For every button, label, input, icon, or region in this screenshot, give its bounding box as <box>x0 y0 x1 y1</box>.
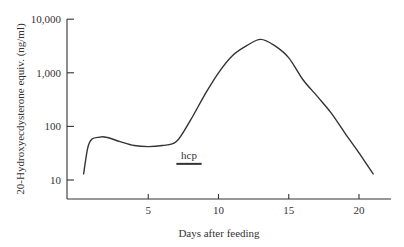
hcp-label: hcp <box>181 149 197 161</box>
x-tick-label: 15 <box>283 204 295 216</box>
x-tick-label: 10 <box>213 204 225 216</box>
x-tick-label: 20 <box>354 204 366 216</box>
y-tick-label: 10 <box>50 174 62 186</box>
y-axis-title: 20-Hydroxyecdysterone equiv. (ng/ml) <box>14 23 27 195</box>
y-tick-label: 1,000 <box>36 67 61 79</box>
x-axis-title: Days after feeding <box>178 227 260 239</box>
x-tick-label: 5 <box>146 204 152 216</box>
axes <box>67 19 391 199</box>
x-ticks: 5101520 <box>146 194 366 216</box>
data-line <box>84 39 374 174</box>
annotations: hcp <box>176 149 201 164</box>
chart: 101001,00010,000 5101520 hcp Days after … <box>0 0 404 247</box>
y-tick-label: 100 <box>45 120 62 132</box>
y-tick-label: 10,000 <box>31 13 62 25</box>
